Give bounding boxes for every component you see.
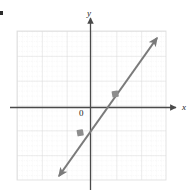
origin-label: 0	[79, 109, 84, 118]
grid-group	[17, 31, 166, 180]
major-grid	[17, 31, 166, 180]
graph-canvas	[0, 0, 194, 196]
x-axis-label: x	[182, 103, 186, 112]
data-point-2	[111, 90, 118, 97]
data-point-1	[76, 129, 83, 136]
y-axis-label: y	[87, 9, 91, 18]
graph-figure: y x 0	[0, 0, 194, 196]
